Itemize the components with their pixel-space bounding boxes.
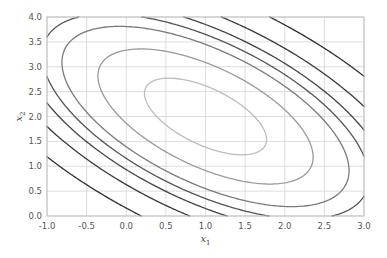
x-tick-label: 0.5 [159, 221, 173, 231]
grid-lines [47, 17, 364, 216]
y-tick-label: 2.5 [28, 87, 42, 97]
x-tick-label: 1.0 [199, 221, 213, 231]
x-tick-label: 3.0 [357, 221, 371, 231]
y-tick-label: 1.0 [28, 161, 42, 171]
x-axis-ticks: -1.0-0.50.00.51.01.52.02.53.0 [39, 221, 371, 231]
x-tick-label: 2.5 [318, 221, 332, 231]
y-axis-ticks: 0.00.51.01.52.02.53.03.54.0 [28, 12, 42, 221]
y-tick-label: 0.5 [28, 186, 42, 196]
contour-chart: -1.0-0.50.00.51.01.52.02.53.0 0.00.51.01… [0, 0, 387, 258]
y-tick-label: 2.0 [28, 112, 42, 122]
y-tick-label: 3.5 [28, 37, 42, 47]
y-tick-label: 4.0 [28, 12, 42, 22]
x-tick-label: 0.0 [119, 221, 133, 231]
x-tick-label: 2.0 [278, 221, 292, 231]
x-axis-label: x1 [200, 233, 210, 247]
y-tick-label: 1.5 [28, 136, 42, 146]
x-tick-label: -0.5 [78, 221, 95, 231]
y-tick-label: 0.0 [28, 211, 42, 221]
x-tick-label: -1.0 [39, 221, 56, 231]
y-axis-label: x2 [13, 111, 27, 121]
x-tick-label: 1.5 [238, 221, 252, 231]
y-tick-label: 3.0 [28, 62, 42, 72]
